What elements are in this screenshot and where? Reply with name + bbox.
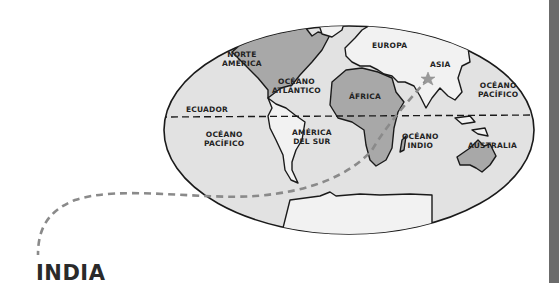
- label-south-america: AMÉRICA DEL SUR: [292, 128, 332, 146]
- antarctica-shape: [280, 192, 432, 240]
- label-north-america: NORTE AMÉRICA: [222, 50, 262, 68]
- page-title: INDIA: [36, 262, 105, 283]
- label-atlantic-ocean: OCÉANO ATLÁNTICO: [272, 77, 321, 95]
- side-bar: [549, 0, 559, 283]
- label-australia: AUSTRALIA: [468, 141, 517, 150]
- label-pacific-ocean-west: OCÉANO PACÍFICO: [204, 130, 244, 148]
- label-equator: ECUADOR: [186, 105, 228, 114]
- label-indian-ocean: OCÉANO INDIO: [402, 132, 439, 150]
- label-pacific-ocean-east: OCÉANO PACÍFICO: [478, 81, 518, 99]
- label-africa: ÁFRICA: [349, 92, 381, 101]
- label-europe: EUROPA: [372, 41, 407, 50]
- label-asia: ASIA: [430, 60, 451, 69]
